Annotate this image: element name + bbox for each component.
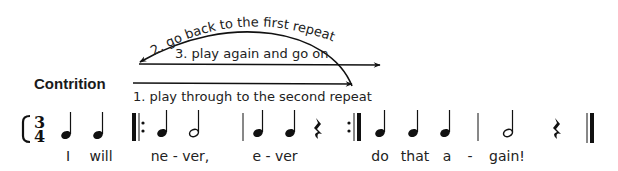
- play-again-arrow: [139, 64, 380, 65]
- staff-bracket: [23, 116, 30, 142]
- lyric: will: [89, 148, 112, 164]
- lyric: e - ver: [252, 148, 297, 164]
- note-quarter: [92, 112, 104, 141]
- quarter-rest: [314, 118, 322, 139]
- step3-label: 3. play again and go on: [175, 46, 328, 61]
- note-quarter: [156, 110, 168, 139]
- lyric: a: [443, 148, 452, 164]
- lyric: I: [66, 148, 70, 164]
- lyric: do: [371, 148, 388, 164]
- start-repeat-barline: [132, 113, 145, 141]
- note-half: [188, 110, 199, 138]
- play-through-arrow: [133, 83, 352, 84]
- note-quarter: [252, 110, 264, 139]
- end-repeat-barline: [347, 113, 361, 141]
- note-quarter: [439, 110, 451, 139]
- lyric: -: [467, 148, 472, 164]
- note-quarter: [407, 110, 419, 139]
- lyric: gain!: [489, 148, 525, 164]
- music-diagram: 2. go back to the first repeat 3. play a…: [0, 0, 618, 171]
- lyric: ne - ver,: [151, 148, 210, 164]
- lyric: that: [401, 148, 429, 164]
- quarter-rest: [553, 118, 561, 139]
- time-signature-bottom: 4: [34, 127, 45, 146]
- final-barline: [587, 113, 594, 143]
- note-quarter: [284, 110, 296, 139]
- note-quarter: [60, 112, 72, 141]
- step1-label: 1. play through to the second repeat: [133, 89, 372, 104]
- note-half: [502, 110, 513, 138]
- note-quarter: [374, 110, 386, 139]
